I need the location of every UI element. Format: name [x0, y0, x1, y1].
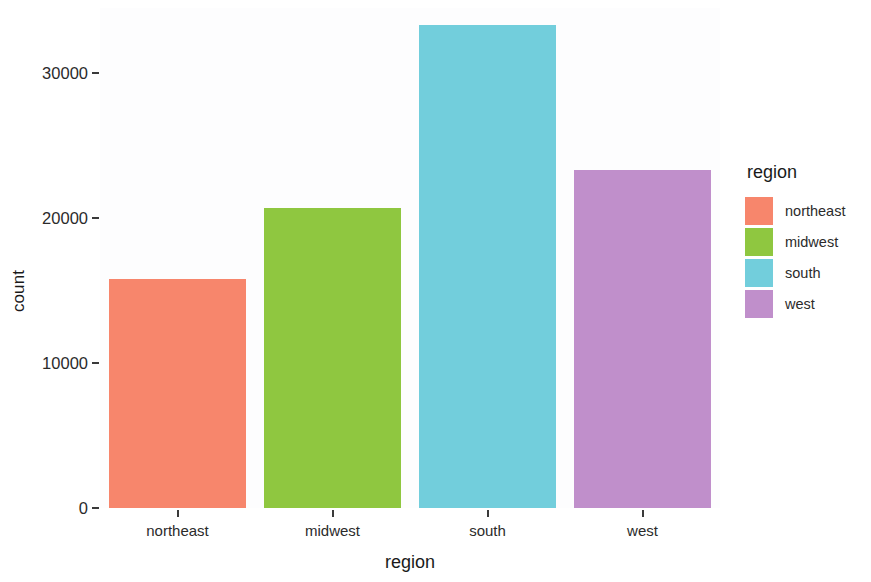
x-axis-title: region	[100, 552, 720, 573]
y-axis-tick-mark	[92, 217, 99, 219]
legend-item-midwest: midwest	[745, 226, 871, 257]
x-axis-tick-mark	[487, 510, 489, 517]
legend-item-south: south	[745, 257, 871, 288]
legend-label-west: west	[785, 296, 815, 312]
plot-panel	[100, 8, 720, 508]
y-axis-tick-mark	[92, 507, 99, 509]
y-axis-tick-label: 20000	[42, 208, 88, 228]
bar-northeast	[109, 279, 246, 508]
y-axis-tick-label: 30000	[42, 63, 88, 83]
legend-items: northeastmidwestsouthwest	[745, 195, 871, 319]
y-axis-ticks: 0100002000030000	[0, 0, 88, 582]
bar-midwest	[264, 208, 401, 508]
y-axis-tick-mark	[92, 362, 99, 364]
x-axis-tick-label-west: west	[627, 522, 658, 539]
bar-chart: count 0100002000030000 northeastmidwests…	[0, 0, 871, 582]
legend-item-west: west	[745, 288, 871, 319]
bar-west	[574, 170, 711, 508]
legend-swatch-midwest	[745, 228, 773, 256]
legend-item-northeast: northeast	[745, 195, 871, 226]
x-axis-tick-mark	[177, 510, 179, 517]
legend-title: region	[745, 162, 871, 183]
legend-label-south: south	[785, 265, 820, 281]
legend-swatch-south	[745, 259, 773, 287]
legend-label-midwest: midwest	[785, 234, 838, 250]
x-axis-tick-label-midwest: midwest	[305, 522, 360, 539]
x-axis-tick-label-northeast: northeast	[146, 522, 209, 539]
x-axis-tick-mark	[332, 510, 334, 517]
y-axis-tick-label: 10000	[42, 353, 88, 373]
legend-label-northeast: northeast	[785, 203, 845, 219]
y-axis-tick-label: 0	[79, 498, 88, 518]
x-axis-tick-label-south: south	[469, 522, 506, 539]
y-axis-tick-mark	[92, 72, 99, 74]
legend-swatch-west	[745, 290, 773, 318]
legend-swatch-northeast	[745, 197, 773, 225]
x-axis-tick-mark	[642, 510, 644, 517]
legend: region northeastmidwestsouthwest	[745, 162, 871, 319]
bar-south	[419, 25, 556, 508]
